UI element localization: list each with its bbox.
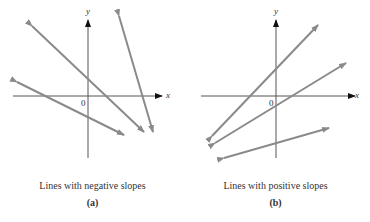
panel-a-caption: Lines with negative slopes <box>0 180 185 191</box>
panel-b-graph <box>201 20 355 158</box>
panel-a-graph <box>13 16 162 158</box>
panel-b-y-label: y <box>274 6 278 16</box>
panel-a-label: (a) <box>0 197 185 208</box>
panel-a-y-label: y <box>86 6 90 16</box>
panel-a-origin-label: 0 <box>81 98 86 108</box>
line-pos-1 <box>212 25 318 136</box>
panel-b-x-label: x <box>355 90 359 100</box>
line-neg-3 <box>119 16 153 132</box>
panel-b-label: (b) <box>183 197 368 208</box>
panel-a-x-label: x <box>166 90 170 100</box>
panel-b-caption: Lines with positive slopes <box>183 180 368 191</box>
line-pos-2 <box>215 63 346 143</box>
line-neg-2 <box>17 82 124 135</box>
panel-b-origin-label: 0 <box>269 98 274 108</box>
